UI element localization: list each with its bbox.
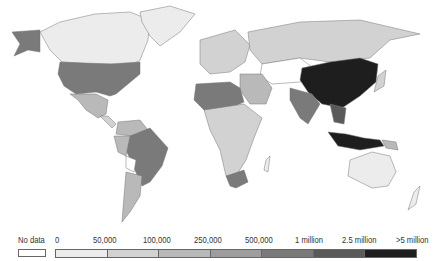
region-australia xyxy=(348,152,396,188)
region-argentina xyxy=(122,172,142,222)
legend-swatch-2 xyxy=(159,250,211,257)
region-indonesia xyxy=(328,132,384,150)
region-europe xyxy=(200,30,250,74)
legend-swatch-1 xyxy=(108,250,160,257)
legend-label-100000: 100,000 xyxy=(143,235,171,245)
legend-swatch-0 xyxy=(56,250,108,257)
region-alaska xyxy=(12,30,40,56)
legend-swatch-6 xyxy=(365,250,416,257)
region-papua xyxy=(382,140,398,150)
legend-swatch-4 xyxy=(262,250,314,257)
legend-swatch-3 xyxy=(211,250,263,257)
region-madagascar xyxy=(264,156,270,172)
world-map xyxy=(0,0,447,225)
legend-label-250000: 250,000 xyxy=(194,235,222,245)
region-central-america xyxy=(100,116,116,128)
region-usa xyxy=(58,62,140,96)
legend-label-50000: 50,000 xyxy=(93,235,116,245)
legend: No data 0 50,000 100,000 250,000 500,000… xyxy=(0,235,447,261)
region-africa-central xyxy=(204,104,262,176)
legend-label-0: 0 xyxy=(55,235,59,245)
legend-swatch-5 xyxy=(314,250,366,257)
legend-color-bar xyxy=(55,249,417,258)
legend-label-5m: >5 million xyxy=(396,235,429,245)
region-russia xyxy=(248,20,420,64)
legend-label-2-5m: 2.5 million xyxy=(342,235,376,245)
region-new-zealand xyxy=(408,186,420,210)
legend-label-500000: 500,000 xyxy=(245,235,273,245)
legend-no-data-label: No data xyxy=(18,235,45,245)
region-canada xyxy=(40,12,150,66)
legend-label-1m: 1 million xyxy=(295,235,323,245)
legend-no-data-swatch xyxy=(18,249,46,257)
region-mexico xyxy=(70,94,108,118)
